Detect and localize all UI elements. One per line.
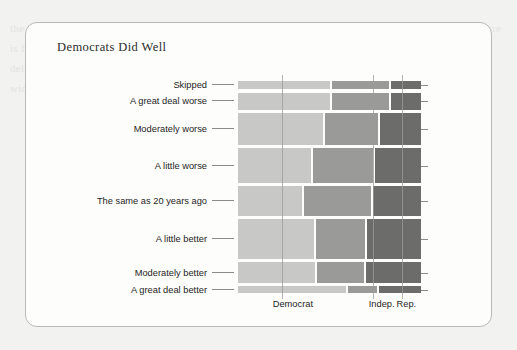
x-axis-tick-label: Indep. <box>369 299 395 309</box>
mosaic-cell <box>332 81 388 89</box>
mosaic-cell <box>238 113 323 144</box>
mosaic-cell <box>238 148 311 183</box>
y-axis-tick-text: A great deal better <box>131 285 207 295</box>
right-axis-tick <box>421 273 428 274</box>
y-axis-tick-label: A little better <box>58 234 234 244</box>
y-axis-tick-dash <box>212 200 234 201</box>
y-axis-tick-dash <box>212 128 234 129</box>
mosaic-cell <box>367 219 421 259</box>
y-axis-tick-dash <box>212 289 234 290</box>
y-axis-tick-label: A little worse <box>58 161 234 171</box>
right-axis-tick <box>421 101 428 102</box>
mosaic-cell <box>373 186 421 215</box>
y-axis-tick-text: Skipped <box>173 80 207 90</box>
mosaic-cell <box>238 93 330 110</box>
right-axis-tick <box>421 201 428 202</box>
mosaic-cell <box>380 113 421 144</box>
mosaic-cell <box>238 286 346 293</box>
x-axis-tick-label: Democrat <box>273 299 313 309</box>
y-axis-tick-label: A great deal worse <box>58 96 234 106</box>
mosaic-row <box>238 93 421 110</box>
mosaic-cell <box>317 262 364 283</box>
page-title: Democrats Did Well <box>57 40 166 55</box>
mosaic-row <box>238 219 421 259</box>
mosaic-cell <box>391 93 421 110</box>
mosaic-plot: SkippedA great deal worseModerately wors… <box>238 81 421 293</box>
mosaic-cell <box>313 148 373 183</box>
mosaic-cell <box>379 286 421 293</box>
mosaic-cell <box>238 81 330 89</box>
y-axis-tick-dash <box>212 272 234 273</box>
right-axis-tick <box>421 129 428 130</box>
y-axis-tick-dash <box>212 84 234 85</box>
mosaic-row <box>238 148 421 183</box>
right-axis-tick <box>421 85 428 86</box>
mosaic-cell <box>332 93 388 110</box>
mosaic-cell <box>391 81 421 89</box>
y-axis-tick-label: Skipped <box>58 80 234 90</box>
mosaic-row <box>238 262 421 283</box>
y-axis-tick-text: A little better <box>156 234 207 244</box>
mosaic-row <box>238 186 421 215</box>
y-axis-tick-text: Moderately worse <box>134 124 207 134</box>
mosaic-row <box>238 81 421 89</box>
y-axis-tick-text: Moderately better <box>135 268 207 278</box>
y-axis-tick-label: A great deal better <box>58 285 234 295</box>
mosaic-row <box>238 286 421 293</box>
right-axis-tick <box>421 290 428 291</box>
mosaic-cell <box>238 186 302 215</box>
right-axis-tick <box>421 239 428 240</box>
y-axis-tick-label: Moderately better <box>58 268 234 278</box>
vertical-gridline <box>402 75 403 299</box>
chart-card: Democrats Did Well SkippedA great deal w… <box>25 22 492 327</box>
y-axis-tick-text: The same as 20 years ago <box>97 196 207 206</box>
mosaic-cell <box>238 219 314 259</box>
mosaic-cell <box>316 219 365 259</box>
mosaic-cell <box>375 148 421 183</box>
y-axis-tick-label: The same as 20 years ago <box>58 196 234 206</box>
y-axis-tick-dash <box>212 238 234 239</box>
mosaic-cell <box>238 262 315 283</box>
y-axis-tick-label: Moderately worse <box>58 124 234 134</box>
mosaic-cell <box>304 186 370 215</box>
y-axis-tick-dash <box>212 100 234 101</box>
mosaic-row <box>238 113 421 144</box>
y-axis-tick-text: A great deal worse <box>130 96 207 106</box>
mosaic-cell <box>325 113 378 144</box>
vertical-gridline <box>282 75 283 299</box>
y-axis-tick-dash <box>212 165 234 166</box>
y-axis-tick-text: A little worse <box>155 161 207 171</box>
right-axis-tick <box>421 166 428 167</box>
mosaic-cell <box>366 262 421 283</box>
vertical-gridline <box>373 75 374 299</box>
mosaic-rows <box>238 81 421 293</box>
x-axis-tick-label: Rep. <box>397 299 417 309</box>
